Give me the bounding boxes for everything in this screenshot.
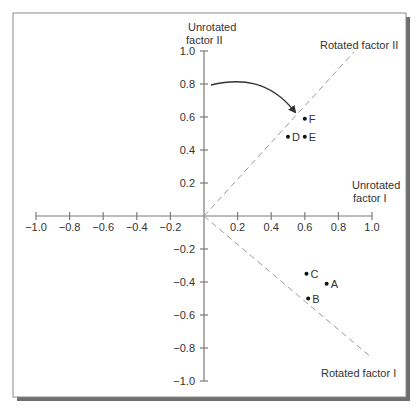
y-tick-label: −0.2 <box>173 243 195 255</box>
y-axis-title-line1: Unrotated <box>188 21 236 33</box>
x-tick-label: −0.6 <box>92 221 114 233</box>
point-label: A <box>331 278 339 290</box>
x-tick-label: 1.0 <box>364 221 379 233</box>
rotated-factor-i-label: Rotated factor I <box>321 367 396 379</box>
point-marker <box>303 117 307 121</box>
frame <box>13 13 406 397</box>
x-tick-label: −1.0 <box>25 221 47 233</box>
x-axis-title-line2: factor I <box>353 192 387 204</box>
point-label: D <box>292 131 300 143</box>
point-label: E <box>309 131 316 143</box>
point-label: B <box>312 293 319 305</box>
y-tick-label: 0.6 <box>180 111 195 123</box>
x-tick-label: 0.8 <box>331 221 346 233</box>
x-tick-label: 0.4 <box>264 221 279 233</box>
y-tick-label: 1.0 <box>180 45 195 57</box>
y-tick-label: 0.2 <box>180 177 195 189</box>
x-tick-label: −0.2 <box>160 221 182 233</box>
factor-rotation-diagram: −1.0−0.8−0.6−0.4−0.20.20.40.60.81.0 1.00… <box>0 0 419 412</box>
y-tick-label: 0.8 <box>180 78 195 90</box>
y-axis-title-line2: factor II <box>186 34 223 46</box>
point-marker <box>325 282 329 286</box>
rotated-factor-ii-label: Rotated factor II <box>320 39 398 51</box>
x-tick-label: −0.8 <box>59 221 81 233</box>
y-tick-label: −1.0 <box>173 375 195 387</box>
x-axis-title-line1: Unrotated <box>352 179 400 191</box>
x-tick-label: −0.4 <box>126 221 148 233</box>
y-tick-label: −0.6 <box>173 309 195 321</box>
point-marker <box>304 272 308 276</box>
x-tick-label: 0.6 <box>297 221 312 233</box>
y-tick-label: −0.8 <box>173 342 195 354</box>
point-marker <box>306 297 310 301</box>
y-tick-label: 0.4 <box>180 144 195 156</box>
plot-svg: −1.0−0.8−0.6−0.4−0.20.20.40.60.81.0 1.00… <box>0 0 419 412</box>
point-label: F <box>309 113 316 125</box>
y-tick-label: −0.4 <box>173 276 195 288</box>
point-label: C <box>310 268 318 280</box>
point-marker <box>303 135 307 139</box>
point-marker <box>286 135 290 139</box>
x-tick-label: 0.2 <box>230 221 245 233</box>
